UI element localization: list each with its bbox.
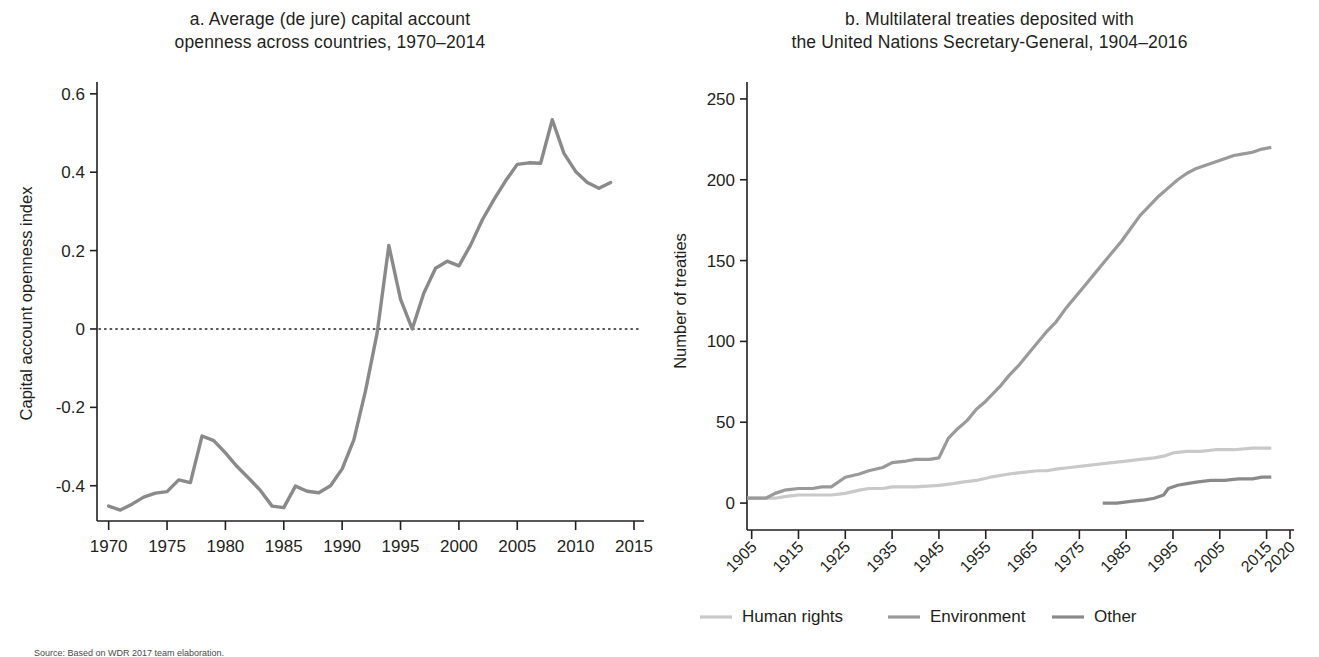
panel-a-x-tick-label: 1990 [323,537,361,556]
legend-item-human-rights[interactable]: Human rights [700,607,843,626]
panel-b-y-tick-label: 150 [707,252,735,271]
panel-b-y-tick-label: 200 [707,171,735,190]
panel-a-y-tick-label: 0.4 [61,163,85,182]
panel-a-x-tick-label: 2000 [440,537,478,556]
panel-a-y-tick-label: 0 [76,320,85,339]
legend-label: Environment [930,607,1026,626]
panel-b-plot: 0501001502002501905191519251935194519551… [660,0,1319,657]
panel-a-y-tick-label: -0.4 [56,477,85,496]
panel-b-series-line-other [1103,477,1272,503]
panel-b-y-tick-label: 250 [707,90,735,109]
panel-a-x-tick-label: 1995 [382,537,420,556]
panel-b-series-line-environment [747,147,1271,498]
panel-b-series-line-human-rights [747,448,1271,498]
panel-b-x-tick-label: 1935 [863,538,900,575]
panel-a-x-tick-label: 1970 [90,537,128,556]
panel-b-x-tick-label: 1965 [1003,538,1040,575]
source-note: Source: Based on WDR 2017 team elaborati… [34,648,224,657]
panel-a-y-axis-label: Capital account openness index [17,186,35,421]
legend-item-other[interactable]: Other [1052,607,1137,626]
panel-a-y-tick-label: 0.6 [61,85,85,104]
panel-b-y-axis-label: Number of treaties [671,233,689,369]
panel-b-y-tick-label: 0 [726,494,735,513]
panel-b-x-tick-label: 1905 [723,538,760,575]
panel-b-multilateral-treaties: b. Multilateral treaties deposited with … [660,0,1319,657]
panel-b-x-tick-label: 1985 [1097,538,1134,575]
panel-b-x-tick-label: 1975 [1050,538,1087,575]
panel-a-x-tick-label: 2005 [498,537,536,556]
panel-b-x-tick-label: 1995 [1144,538,1181,575]
panel-a-capital-account-openness: a. Average (de jure) capital account ope… [0,0,660,657]
panel-b-x-tick-label: 1925 [816,538,853,575]
legend-item-environment[interactable]: Environment [888,607,1026,626]
panel-a-series-line [109,120,611,510]
legend-label: Human rights [742,607,843,626]
panel-a-plot: -0.4-0.200.20.40.61970197519801985199019… [0,0,660,657]
panel-a-y-tick-label: 0.2 [61,242,85,261]
panel-b-x-tick-label: 1945 [910,538,947,575]
panel-b-x-tick-label: 1955 [957,538,994,575]
panel-a-x-tick-label: 1980 [206,537,244,556]
legend-label: Other [1094,607,1137,626]
panel-b-y-tick-label: 100 [707,332,735,351]
panel-a-x-tick-label: 1985 [265,537,303,556]
panel-b-x-tick-label: 2005 [1191,538,1228,575]
panel-a-x-tick-label: 2015 [615,537,653,556]
panel-a-y-tick-label: -0.2 [56,398,85,417]
panel-b-x-tick-label: 1915 [769,538,806,575]
panel-a-x-tick-label: 2010 [557,537,595,556]
panel-a-x-tick-label: 1975 [148,537,186,556]
figure-root: a. Average (de jure) capital account ope… [0,0,1319,657]
panel-b-y-tick-label: 50 [716,413,735,432]
